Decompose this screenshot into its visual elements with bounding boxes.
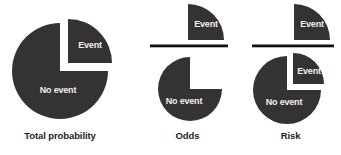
denominator-label-event: Event (297, 66, 321, 76)
probability-odds-risk-diagram: Event No event Total probability Event N… (0, 0, 341, 155)
fraction-bar (252, 45, 334, 48)
total-probability-pie: Event No event (0, 0, 120, 130)
odds-fraction: Event No event (140, 0, 235, 130)
denominator-label-no-event: No event (266, 97, 303, 107)
caption-odds: Odds (140, 130, 235, 141)
panel-risk: Event Event No event Risk (243, 0, 338, 155)
denominator-label-no-event: No event (166, 96, 203, 106)
slice-label-no-event: No event (40, 85, 77, 95)
caption-total-probability: Total probability (0, 130, 120, 141)
caption-risk: Risk (243, 130, 338, 141)
panel-odds: Event No event Odds (140, 0, 235, 155)
panel-total-probability: Event No event Total probability (0, 0, 120, 155)
denominator-slice-no-event (158, 57, 222, 121)
numerator-label-event: Event (194, 19, 218, 29)
numerator-label-event: Event (300, 19, 324, 29)
risk-fraction: Event Event No event (243, 0, 338, 130)
fraction-bar (150, 45, 228, 48)
slice-label-event: Event (78, 40, 102, 50)
